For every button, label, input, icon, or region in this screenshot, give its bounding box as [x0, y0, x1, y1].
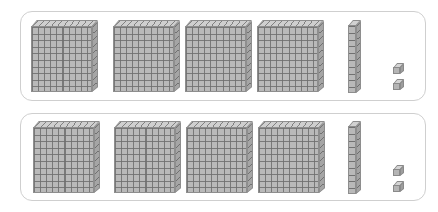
- ones-unit-cube[interactable]: [393, 165, 404, 176]
- flat-front-face: [113, 26, 174, 92]
- unit-front-face: [393, 185, 400, 192]
- flat-side-face: [174, 21, 180, 92]
- unit-front-face: [393, 83, 400, 90]
- tray-value-top: 422: [21, 12, 22, 13]
- blocks-canvas: 422: [0, 0, 438, 212]
- flat-front-face: [33, 127, 94, 193]
- flat-front-face: [31, 26, 92, 92]
- unit-front-face: [393, 67, 400, 74]
- flat-side-face: [175, 122, 181, 193]
- flat-front-face: [114, 127, 175, 193]
- unit-side-face: [400, 182, 404, 192]
- unit-side-face: [400, 166, 404, 176]
- unit-side-face: [400, 80, 404, 90]
- rod-side-face: [356, 122, 361, 194]
- unit-front-face: [393, 169, 400, 176]
- rod-front-face: [348, 126, 356, 194]
- rod-side-face: [356, 21, 361, 93]
- tens-rod[interactable]: [348, 20, 361, 93]
- flat-side-face: [247, 122, 253, 193]
- flat-side-face: [246, 21, 252, 92]
- flat-side-face: [94, 122, 100, 193]
- flat-front-face: [257, 26, 318, 92]
- flat-side-face: [92, 21, 98, 92]
- flat-front-face: [186, 127, 247, 193]
- tray-value-bottom: 422: [21, 114, 22, 115]
- hundreds-flat[interactable]: [185, 20, 252, 92]
- hundreds-flat[interactable]: [186, 121, 253, 193]
- tens-rod[interactable]: [348, 121, 361, 194]
- flat-front-face: [185, 26, 246, 92]
- hundreds-flat[interactable]: [258, 121, 325, 193]
- block-tray-bottom[interactable]: 422: [20, 113, 426, 201]
- ones-unit-cube[interactable]: [393, 79, 404, 90]
- ones-unit-cube[interactable]: [393, 63, 404, 74]
- hundreds-flat[interactable]: [114, 121, 181, 193]
- block-tray-top[interactable]: 422: [20, 11, 426, 101]
- hundreds-flat[interactable]: [113, 20, 180, 92]
- flat-front-face: [258, 127, 319, 193]
- flat-side-face: [319, 122, 325, 193]
- hundreds-flat[interactable]: [257, 20, 324, 92]
- ones-unit-cube[interactable]: [393, 181, 404, 192]
- flat-side-face: [318, 21, 324, 92]
- unit-side-face: [400, 64, 404, 74]
- hundreds-flat[interactable]: [31, 20, 98, 92]
- rod-front-face: [348, 25, 356, 93]
- hundreds-flat[interactable]: [33, 121, 100, 193]
